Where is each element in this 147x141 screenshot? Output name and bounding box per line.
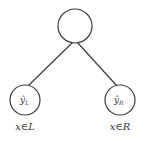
condition-left: x∈L (15, 121, 35, 132)
tree-diagram: ŷL ŷR x∈L x∈R (0, 0, 147, 141)
edge-right (77, 42, 117, 86)
root-node (58, 9, 92, 43)
edge-left (28, 42, 73, 86)
condition-right: x∈R (110, 121, 131, 132)
